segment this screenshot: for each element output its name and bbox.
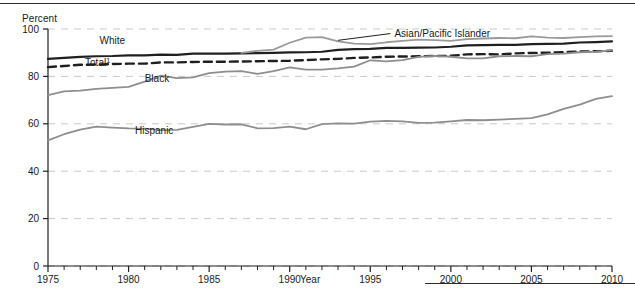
series-label-hispanic: Hispanic bbox=[135, 125, 173, 136]
total-footnote-marker: 1 bbox=[106, 57, 110, 64]
y-tick-label-20: 20 bbox=[28, 213, 40, 224]
series-label-black: Black bbox=[145, 73, 170, 84]
y-tick-label-80: 80 bbox=[28, 71, 40, 82]
x-tick-label-1990: 1990 bbox=[279, 274, 302, 285]
series-line-hispanic bbox=[48, 96, 612, 140]
x-tick-marks-group bbox=[48, 266, 612, 272]
series-lines-group bbox=[48, 36, 612, 140]
y-tick-label-40: 40 bbox=[28, 166, 40, 177]
y-tick-label-60: 60 bbox=[28, 118, 40, 129]
line-chart-plot: 020406080100 197519801985199019952000200… bbox=[0, 0, 635, 292]
x-tick-label-1995: 1995 bbox=[359, 274, 382, 285]
series-label-white: White bbox=[100, 35, 126, 46]
x-tick-label-1975: 1975 bbox=[37, 274, 60, 285]
bottom-divider-rule bbox=[425, 283, 635, 284]
annotation-leader-line bbox=[338, 34, 390, 41]
y-tick-label-0: 0 bbox=[33, 261, 39, 272]
y-tick-labels-group: 020406080100 bbox=[22, 24, 39, 272]
annotation-label-asian-pacific-islander: Asian/Pacific Islander bbox=[394, 28, 490, 39]
series-line-black bbox=[48, 50, 612, 95]
figure-container: Percent Year 020406080100 19751980198519… bbox=[0, 0, 635, 292]
x-tick-label-1980: 1980 bbox=[117, 274, 140, 285]
y-tick-label-100: 100 bbox=[22, 24, 39, 35]
x-tick-label-1985: 1985 bbox=[198, 274, 221, 285]
y-tick-marks-group bbox=[43, 29, 48, 266]
series-line-total bbox=[48, 51, 612, 67]
series-label-total: Total1 bbox=[85, 57, 110, 68]
